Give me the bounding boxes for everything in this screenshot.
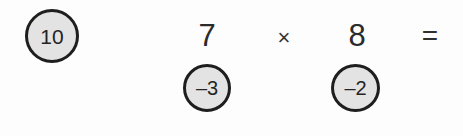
answer-bubble-label: 10 [40,25,63,46]
equals-sign-icon: = [419,22,441,50]
multiplication-sign-icon: × [274,27,294,49]
worksheet-canvas: 10 7 × 8 = –3 –2 [0,0,463,136]
hint-bubble-factor-2[interactable]: –2 [331,64,380,112]
factor-2: 8 [346,20,368,51]
hint-bubble-factor-2-label: –2 [344,78,366,98]
factor-1: 7 [196,20,218,51]
hint-bubble-factor-1[interactable]: –3 [183,64,231,112]
hint-bubble-factor-1-label: –3 [196,78,218,98]
answer-bubble[interactable]: 10 [25,9,79,63]
